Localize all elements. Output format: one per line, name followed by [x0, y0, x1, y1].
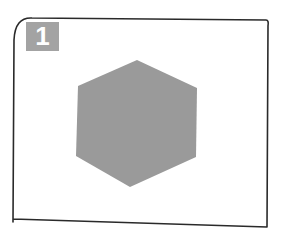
- step-number-badge: 1: [26, 22, 59, 51]
- figure-panel: 1: [0, 0, 283, 243]
